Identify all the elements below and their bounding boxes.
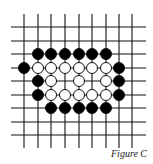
white-stone-icon xyxy=(74,90,85,101)
black-stone-icon xyxy=(87,103,98,114)
white-stone-icon xyxy=(74,76,85,87)
white-stone-icon xyxy=(101,90,112,101)
white-stone-icon xyxy=(101,63,112,74)
black-stone-icon xyxy=(74,49,85,60)
black-stone-icon xyxy=(33,49,44,60)
white-stone-icon xyxy=(46,63,57,74)
white-stone-icon xyxy=(46,90,57,101)
figure-caption: Figure C xyxy=(111,148,147,159)
black-stone-icon xyxy=(60,103,71,114)
white-stone-icon xyxy=(60,90,71,101)
white-stone-icon xyxy=(101,76,112,87)
black-stone-icon xyxy=(87,49,98,60)
black-stone-icon xyxy=(60,49,71,60)
white-stone-icon xyxy=(74,63,85,74)
white-stone-icon xyxy=(46,76,57,87)
white-stone-icon xyxy=(33,63,44,74)
white-stone-icon xyxy=(60,63,71,74)
black-stone-icon xyxy=(19,63,30,74)
black-stone-icon xyxy=(101,49,112,60)
black-stone-icon xyxy=(101,103,112,114)
go-board-diagram xyxy=(0,0,153,164)
white-stone-icon xyxy=(87,90,98,101)
black-stone-icon xyxy=(46,103,57,114)
black-stone-icon xyxy=(114,90,125,101)
white-stone-icon xyxy=(87,63,98,74)
black-stone-icon xyxy=(33,76,44,87)
black-stone-icon xyxy=(46,49,57,60)
black-stone-icon xyxy=(114,63,125,74)
black-stone-icon xyxy=(74,103,85,114)
black-stone-icon xyxy=(33,90,44,101)
black-stone-icon xyxy=(114,76,125,87)
